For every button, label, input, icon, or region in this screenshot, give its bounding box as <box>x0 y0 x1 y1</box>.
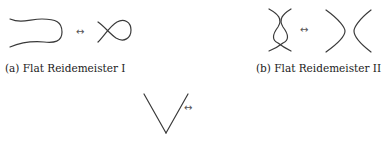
move-c-left-triangle <box>143 94 190 133</box>
move-a-left-hairpin <box>10 19 62 47</box>
equivalence-arrow-b: ↔ <box>300 24 308 35</box>
move-b-right-arcs <box>326 10 371 52</box>
move-b-left-bigon <box>269 9 291 51</box>
equivalence-arrow-a: ↔ <box>76 26 84 37</box>
caption-move-b: (b) Flat Reidemeister II <box>256 62 381 74</box>
move-a-right-loop <box>98 20 131 42</box>
caption-move-a: (a) Flat Reidemeister I <box>5 62 126 74</box>
equivalence-arrow-c: ↔ <box>184 102 192 113</box>
